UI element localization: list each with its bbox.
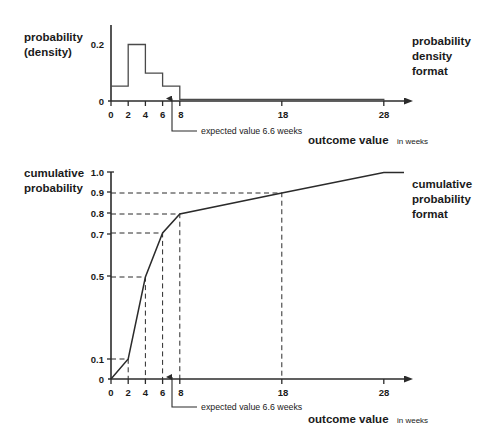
top-x-axis-title: outcome value in weeks bbox=[308, 130, 428, 147]
bottom-x-tick-label-28: 28 bbox=[379, 387, 390, 398]
top-side-label-line1: probability bbox=[412, 35, 471, 47]
bottom-y-tick-1.0: 1.0 bbox=[91, 167, 104, 178]
bottom-expected-value-leader bbox=[172, 388, 197, 407]
bottom-y-tick-0.1: 0.1 bbox=[91, 354, 105, 365]
bottom-x-tick-label-4: 4 bbox=[143, 387, 149, 398]
top-x-tick-label-8: 8 bbox=[178, 109, 183, 120]
top-expected-value-leader bbox=[172, 110, 197, 131]
top-x-tick-label-28: 28 bbox=[379, 109, 390, 120]
top-side-label-line3: format bbox=[412, 65, 448, 77]
bottom-x-axis-title-bold: outcome value bbox=[308, 413, 389, 425]
bottom-y-tick-0.8: 0.8 bbox=[91, 208, 104, 219]
bottom-x-tick-label-0: 0 bbox=[108, 387, 113, 398]
bottom-x-axis-title-small: in weeks bbox=[397, 416, 428, 425]
top-side-label-line2: density bbox=[412, 50, 453, 62]
cdf-curve bbox=[111, 173, 404, 380]
bottom-y-tick-0: 0 bbox=[99, 374, 104, 385]
bottom-x-axis-title: outcome value in weeks bbox=[308, 409, 428, 426]
figure-canvas: probability (density) 0.2 0 0 2 bbox=[0, 0, 493, 438]
bottom-panel-cumulative-probability: cumulative probability 1.0 0.9 0.8 0.7 0… bbox=[24, 167, 472, 426]
bottom-expected-value-label: expected value 6.6 weeks bbox=[201, 402, 303, 412]
top-panel-probability-density: probability (density) 0.2 0 0 2 bbox=[24, 25, 471, 147]
bottom-y-tick-0.9: 0.9 bbox=[91, 187, 104, 198]
bottom-y-tick-0.5: 0.5 bbox=[91, 271, 105, 282]
top-y-axis-title-line2: (density) bbox=[24, 46, 72, 58]
guide-x18-y0.9 bbox=[111, 193, 282, 379]
top-histogram-outline bbox=[111, 45, 384, 102]
bottom-x-tick-label-6: 6 bbox=[160, 387, 165, 398]
top-x-tick-label-6: 6 bbox=[160, 109, 165, 120]
top-y-tick-0.2: 0.2 bbox=[91, 39, 104, 50]
top-y-axis-title-line1: probability bbox=[24, 31, 83, 43]
top-x-tick-label-4: 4 bbox=[143, 109, 149, 120]
bottom-x-tick-label-2: 2 bbox=[126, 387, 131, 398]
bottom-side-label-line1: cumulative bbox=[412, 178, 472, 190]
top-x-tick-label-18: 18 bbox=[278, 109, 289, 120]
bottom-y-axis-title-line2: probability bbox=[24, 182, 83, 194]
bottom-guide-lines bbox=[111, 193, 282, 379]
bottom-y-tick-0.7: 0.7 bbox=[91, 229, 104, 240]
top-x-axis-title-bold: outcome value bbox=[308, 134, 389, 146]
top-expected-value-label: expected value 6.6 weeks bbox=[201, 126, 303, 136]
guide-x6-y0.72 bbox=[111, 233, 163, 379]
top-x-tick-label-0: 0 bbox=[108, 109, 113, 120]
top-y-tick-0: 0 bbox=[99, 96, 104, 107]
bottom-y-axis-title-line1: cumulative bbox=[24, 167, 84, 179]
top-x-tick-label-2: 2 bbox=[126, 109, 131, 120]
bottom-x-tick-label-8: 8 bbox=[178, 387, 183, 398]
bottom-side-label-line3: format bbox=[412, 208, 448, 220]
bottom-side-label-line2: probability bbox=[412, 193, 471, 205]
bottom-x-tick-label-18: 18 bbox=[278, 387, 289, 398]
statistics-figure: probability (density) 0.2 0 0 2 bbox=[0, 0, 493, 438]
top-x-axis-title-small: in weeks bbox=[397, 137, 428, 146]
